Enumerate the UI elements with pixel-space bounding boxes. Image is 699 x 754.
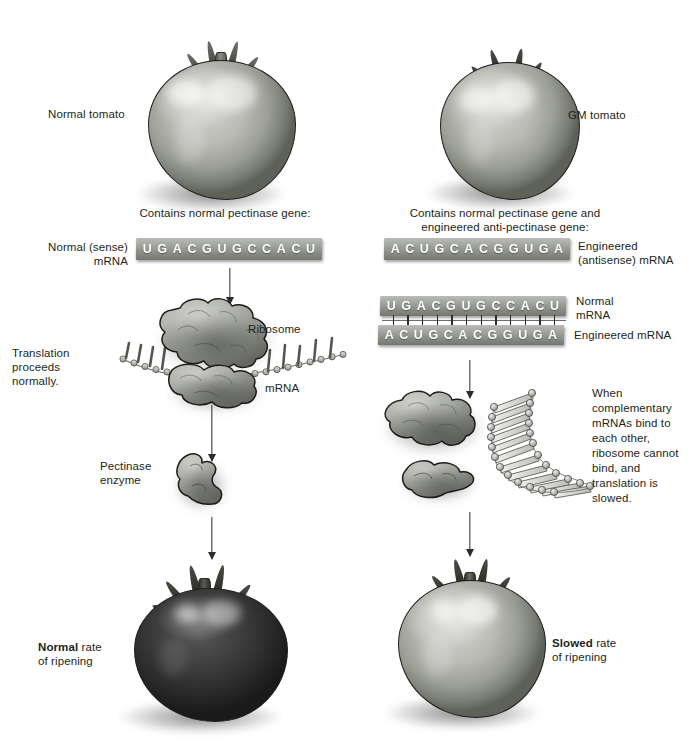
arrow-to-ripe-tomato <box>206 517 218 559</box>
nucleotide-letter: G <box>157 242 167 256</box>
nucleotide-letter: C <box>491 299 500 313</box>
label-pectinase-enzyme: Pectinase enzyme <box>100 459 178 487</box>
nucleotide-letter: A <box>277 242 286 256</box>
label-pectinase-line1: Pectinase <box>100 459 178 473</box>
nucleotide-letter: U <box>524 242 533 256</box>
nucleotide-letter: G <box>509 242 519 256</box>
note-translation-line3: normally. <box>12 374 132 388</box>
pectinase-enzyme <box>172 452 228 508</box>
base-pair-bond <box>451 315 452 325</box>
ribosome-small-subunit-free <box>398 458 478 500</box>
nucleotide-letter: G <box>488 328 498 342</box>
nucleotide-letter: A <box>385 328 394 342</box>
strand-engineered-antisense-mrna: ACUGCACGGUGA <box>384 238 570 260</box>
nucleotide-letter: A <box>548 328 557 342</box>
caption-normal-gene: Contains normal pectinase gene: <box>60 206 390 220</box>
result-normal-ripening: Normal rate of ripening <box>38 640 158 668</box>
nucleotide-letter: A <box>458 328 467 342</box>
result-normal-line2: of ripening <box>38 654 158 668</box>
nucleotide-letter: G <box>428 328 438 342</box>
label-antisense-line2: (antisense) mRNA <box>578 253 698 267</box>
note-translation-line2: proceeds <box>12 360 132 374</box>
label-antisense-line1: Engineered <box>578 239 698 253</box>
nucleotide-letter: G <box>446 299 456 313</box>
base-pair-bond <box>495 315 496 325</box>
base-pair-bond <box>422 315 423 325</box>
nucleotide-letter: U <box>550 299 559 313</box>
nucleotide-letter: C <box>291 242 300 256</box>
nucleotide-letter: A <box>417 299 426 313</box>
result-normal-rest: rate <box>78 641 102 653</box>
result-normal-line1: Normal rate <box>38 640 158 654</box>
strand-sequence: ACUGCACGGUGA <box>384 242 570 256</box>
tomato-gm-top <box>440 62 580 200</box>
nucleotide-letter: C <box>450 242 459 256</box>
explanation-antisense-block: When complementary mRNAs bind to each ot… <box>592 386 696 506</box>
result-slowed-rest: rate <box>593 637 617 649</box>
nucleotide-letter: U <box>387 299 396 313</box>
nucleotide-letter: C <box>247 242 256 256</box>
tomato-gm-ripe <box>398 580 546 718</box>
nucleotide-letter: A <box>173 242 182 256</box>
duplex-base-pair-bonds <box>386 315 562 325</box>
ribosome-large-subunit-free <box>378 390 484 452</box>
nucleotide-letter: C <box>479 242 488 256</box>
label-ribosome: Ribosome <box>248 322 328 336</box>
nucleotide-letter: A <box>464 242 473 256</box>
strand-sequence: UGACGUGCCACU <box>380 299 566 313</box>
bound-mrna-duplex <box>486 385 598 503</box>
result-normal-bold: Normal <box>38 641 78 653</box>
label-sense-mrna-line2: mRNA <box>10 254 128 268</box>
strand-duplex-normal-mrna: UGACGUGCCACU <box>380 296 566 316</box>
base-pair-bond <box>437 315 438 325</box>
nucleotide-letter: G <box>503 328 513 342</box>
base-pair-bond <box>407 315 408 325</box>
strand-normal-sense-mrna: UGACGUGCCACU <box>136 238 322 260</box>
base-pair-bond <box>554 315 555 325</box>
nucleotide-letter: C <box>405 242 414 256</box>
nucleotide-letter: U <box>518 328 527 342</box>
result-slowed-ripening: Slowed rate of ripening <box>552 636 682 664</box>
nucleotide-letter: U <box>420 242 429 256</box>
nucleotide-letter: C <box>262 242 271 256</box>
nucleotide-letter: C <box>444 328 453 342</box>
nucleotide-letter: C <box>399 328 408 342</box>
tomato-normal-top <box>148 60 296 200</box>
strand-duplex-engineered-mrna: ACUGCACGGUGA <box>378 325 564 345</box>
base-pair-bond <box>525 315 526 325</box>
label-mrna-strand: mRNA <box>265 381 325 395</box>
nucleotide-letter: G <box>202 242 212 256</box>
caption-gm-gene-line2: engineered anti-pectinase gene: <box>370 220 640 234</box>
ribosome-small-subunit <box>164 362 264 410</box>
strand-sequence: UGACGUGCCACU <box>136 242 322 256</box>
base-pair-bond <box>481 315 482 325</box>
nucleotide-letter: A <box>391 242 400 256</box>
label-antisense-mrna: Engineered (antisense) mRNA <box>578 239 698 267</box>
nucleotide-letter: C <box>473 328 482 342</box>
nucleotide-letter: U <box>306 242 315 256</box>
label-sense-mrna-line1: Normal (sense) <box>10 240 128 254</box>
nucleotide-letter: C <box>187 242 196 256</box>
nucleotide-letter: U <box>414 328 423 342</box>
nucleotide-letter: A <box>554 242 563 256</box>
base-pair-bond <box>539 315 540 325</box>
nucleotide-letter: G <box>401 299 411 313</box>
arrow-to-gm-ripe-tomato <box>464 512 476 556</box>
note-translation: Translation proceeds normally. <box>12 346 132 388</box>
nucleotide-letter: C <box>431 299 440 313</box>
result-slowed-line2: of ripening <box>552 650 682 664</box>
label-normal-tomato: Normal tomato <box>48 107 158 121</box>
nucleotide-letter: C <box>506 299 515 313</box>
nucleotide-letter: G <box>539 242 549 256</box>
nucleotide-letter: C <box>535 299 544 313</box>
base-pair-bond <box>510 315 511 325</box>
caption-gm-gene-line1: Contains normal pectinase gene and <box>370 206 640 220</box>
label-sense-mrna: Normal (sense) mRNA <box>10 240 128 268</box>
label-duplex-normal-mrna: Normal mRNA <box>576 294 686 322</box>
label-gm-tomato: GM tomato <box>568 108 668 122</box>
nucleotide-letter: G <box>494 242 504 256</box>
nucleotide-letter: G <box>476 299 486 313</box>
result-slowed-line1: Slowed rate <box>552 636 682 650</box>
caption-gm-gene: Contains normal pectinase gene and engin… <box>370 206 640 234</box>
nucleotide-letter: U <box>461 299 470 313</box>
